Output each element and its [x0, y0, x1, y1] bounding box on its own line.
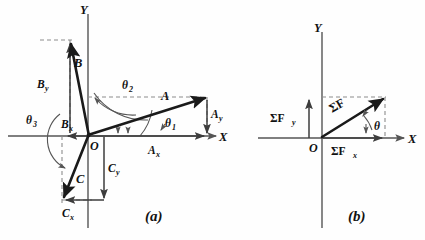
angle-theta3-label: θ: [26, 114, 32, 126]
component-by-label-group: B y: [36, 78, 49, 93]
vector-b-label: B: [73, 56, 82, 70]
component-sum-fx-sub: x: [352, 151, 357, 160]
component-cx-label: C: [62, 207, 70, 219]
vector-c-label: C: [76, 172, 85, 186]
panel-a-x-axis-label: X: [218, 130, 228, 144]
angle-theta-panel-b-label: θ: [374, 120, 380, 132]
component-ax-sub: x: [155, 150, 160, 159]
component-cy-label: C: [108, 162, 116, 174]
panel-b-x-axis-label: X: [407, 132, 417, 146]
component-cx-sub: x: [69, 213, 74, 222]
panel-b-group: X Y O ΣF y ΣF x ΣF θ (b): [258, 21, 417, 228]
component-by-label: B: [36, 78, 45, 90]
component-bx-label-group: B x: [60, 118, 73, 133]
component-sum-fy-label: ΣF: [270, 112, 285, 124]
component-ax-label-group: A x: [147, 144, 160, 159]
component-ay-label-group: A y: [210, 108, 223, 123]
component-sum-fx-label: ΣF: [331, 145, 346, 157]
component-bx-label: B: [60, 118, 69, 130]
vector-sum-f-label: ΣF: [327, 95, 348, 115]
component-cy-sub: y: [115, 168, 120, 177]
angle-theta2-label: θ: [122, 79, 128, 91]
vector-figure: X Y O A B C A x A y B x B y: [0, 0, 425, 240]
component-sum-fx-label-group: ΣF x: [331, 145, 357, 160]
component-sum-fy-sub: y: [291, 118, 296, 127]
figure-root: X Y O A B C A x A y B x B y: [0, 0, 425, 240]
component-bx-sub: x: [68, 124, 73, 133]
component-sum-fy-label-group: ΣF y: [270, 112, 296, 127]
component-ay-label: A: [210, 108, 219, 120]
panel-a-caption: (a): [145, 208, 163, 225]
angle-theta2-sub: 2: [128, 85, 133, 94]
arc-theta1: [140, 110, 152, 136]
panel-a-group: X Y O A B C A x A y B x B y: [8, 3, 228, 228]
component-cx-label-group: C x: [62, 207, 74, 222]
arc-theta-panel-b: [364, 116, 372, 130]
angle-theta3-sub: 3: [32, 120, 37, 129]
vector-a-label: A: [160, 89, 169, 103]
panel-a-origin-label: O: [90, 139, 99, 153]
vector-a: [88, 98, 205, 135]
component-ax-label: A: [147, 144, 156, 156]
angle-theta3-label-group: θ 3: [26, 114, 37, 129]
panel-b-caption: (b): [348, 208, 366, 225]
component-cy-label-group: C y: [108, 162, 120, 177]
angle-theta2-label-group: θ 2: [122, 79, 133, 94]
vector-c: [64, 134, 89, 197]
component-by-sub: y: [44, 84, 49, 93]
angle-theta1-label: θ: [165, 117, 171, 129]
angle-theta1-label-group: θ 1: [165, 117, 176, 132]
panel-b-origin-label: O: [309, 141, 318, 155]
component-ay-sub: y: [218, 114, 223, 123]
angle-theta1-sub: 1: [172, 123, 176, 132]
